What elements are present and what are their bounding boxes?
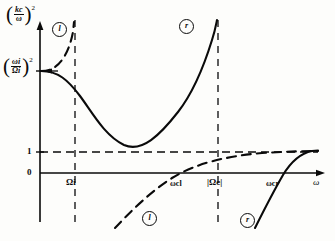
y-axis-title-paren-open: ( bbox=[6, 6, 13, 23]
y-secondary-paren-open: ( bbox=[3, 58, 10, 75]
curve-r-branch-upper bbox=[41, 20, 217, 147]
curve-label-l-upper: l bbox=[52, 22, 67, 37]
reference-lines-group bbox=[40, 20, 318, 228]
y-tick-label-one: 1 bbox=[27, 147, 32, 156]
y-secondary-denominator: Ωi bbox=[11, 67, 21, 75]
x-tick-label-omega-e: |Ωe| bbox=[207, 178, 222, 187]
curve-label-r-upper: r bbox=[179, 19, 194, 34]
x-axis-arrowhead bbox=[316, 170, 325, 177]
x-tick-label-omega-i: Ωi bbox=[66, 178, 76, 187]
x-tick-label-omega-cl: ωcl bbox=[170, 180, 182, 188]
curve-r-group bbox=[41, 20, 318, 228]
plot-canvas bbox=[0, 0, 335, 241]
y-secondary-exponent: 2 bbox=[29, 57, 33, 64]
axes-group bbox=[36, 21, 325, 222]
y-axis-secondary-label: ( ωi Ωi ) 2 bbox=[3, 58, 33, 75]
curve-label-l-lower: l bbox=[142, 211, 157, 226]
curve-r-branch-lower bbox=[255, 151, 318, 229]
y-axis-title: ( kc ω ) 2 bbox=[6, 6, 35, 23]
y-secondary-paren-close: ) bbox=[22, 58, 29, 75]
x-axis-title: ω bbox=[313, 178, 319, 187]
curve-l-group bbox=[41, 22, 318, 228]
x-tick-label-omega-cr: ωcr bbox=[266, 180, 279, 188]
y-axis-arrowhead bbox=[37, 21, 44, 30]
curve-label-r-lower: r bbox=[240, 213, 255, 228]
y-axis-title-paren-close: ) bbox=[25, 6, 32, 23]
y-tick-label-zero: 0 bbox=[27, 168, 32, 177]
y-axis-title-denominator: ω bbox=[15, 15, 23, 23]
y-label-connector-group bbox=[45, 68, 58, 73]
dispersion-diagram-figure: ( kc ω ) 2 ( ωi Ωi ) 2 1 0 Ωi ωcl |Ωe| ω… bbox=[0, 0, 335, 241]
y-axis-title-exponent: 2 bbox=[32, 5, 36, 12]
